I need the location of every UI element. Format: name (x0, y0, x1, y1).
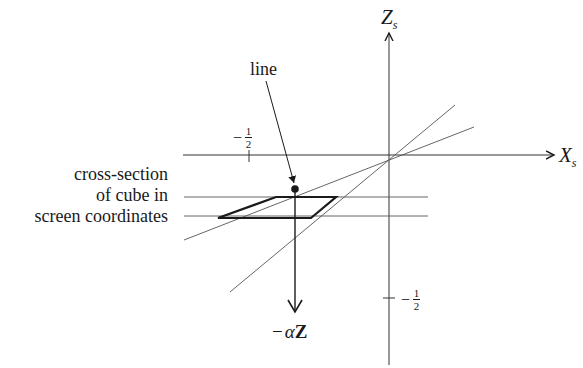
z-tick-sign: − (401, 291, 410, 309)
alpha-symbol: α (285, 321, 295, 342)
caption-line-1: cross-section (0, 164, 168, 185)
z-tick-fraction: 1 2 (413, 288, 420, 311)
diagram-canvas: Zs Xs − 1 2 − 1 2 line cross-section of … (0, 0, 583, 368)
x-tick-numerator: 1 (246, 126, 252, 136)
projection-line-shallow (184, 127, 474, 240)
z-tick-numerator: 1 (414, 288, 420, 298)
x-axis-letter: X (559, 143, 572, 167)
neg-alpha-z-label: −αZ (272, 322, 307, 342)
x-axis-subscript: s (572, 156, 577, 170)
projection-line-steep (230, 105, 455, 292)
x-tick-fraction: 1 2 (245, 126, 252, 149)
x-axis-label: Xs (559, 145, 577, 173)
x-tick-sign: − (233, 129, 242, 147)
z-axis-letter: Z (381, 5, 393, 29)
x-tick-label: − 1 2 (233, 126, 252, 149)
caption-line-2: of cube in (0, 185, 168, 206)
line-label: line (250, 59, 277, 79)
line-pointer-arrow (266, 81, 294, 183)
z-tick-denominator: 2 (414, 301, 420, 311)
z-axis-label: Zs (381, 7, 397, 35)
caption-line-3: screen coordinates (0, 206, 168, 227)
cube-cross-section (218, 197, 336, 218)
cross-section-caption: cross-section of cube in screen coordina… (0, 164, 168, 227)
z-tick-label: − 1 2 (401, 288, 420, 311)
z-vector: Z (295, 321, 308, 342)
minus-sign: − (272, 321, 283, 342)
z-axis-subscript: s (393, 18, 398, 32)
x-tick-denominator: 2 (246, 139, 252, 149)
